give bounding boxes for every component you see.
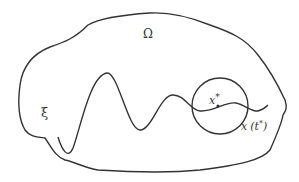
exit-label-close: ) <box>262 120 267 133</box>
point-label-sup: * <box>215 92 220 102</box>
point-x-star <box>216 104 219 107</box>
exit-label: x(t*) <box>241 119 267 133</box>
region-label: Ω <box>143 27 153 41</box>
diagram-canvas: Ω ξ x* x(t*) <box>0 0 299 182</box>
trajectory-curve <box>58 73 268 153</box>
curve-label: ξ <box>41 105 48 120</box>
exit-label-main: x <box>241 120 248 133</box>
